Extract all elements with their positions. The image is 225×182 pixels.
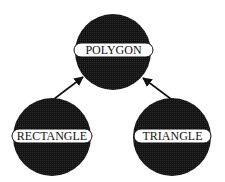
arrow-triangle-to-polygon: [143, 78, 171, 99]
node-rectangle: RECTANGLE: [12, 98, 92, 176]
node-label: TRIANGLE: [143, 129, 203, 143]
node-label: RECTANGLE: [17, 129, 87, 143]
nodes: POLYGONRECTANGLETRIANGLE: [12, 14, 211, 176]
arrow-rectangle-to-polygon: [54, 77, 83, 99]
node-label: POLYGON: [85, 43, 141, 57]
node-triangle: TRIANGLE: [133, 98, 211, 176]
node-polygon: POLYGON: [74, 14, 153, 90]
class-diagram: POLYGONRECTANGLETRIANGLE: [0, 0, 225, 182]
